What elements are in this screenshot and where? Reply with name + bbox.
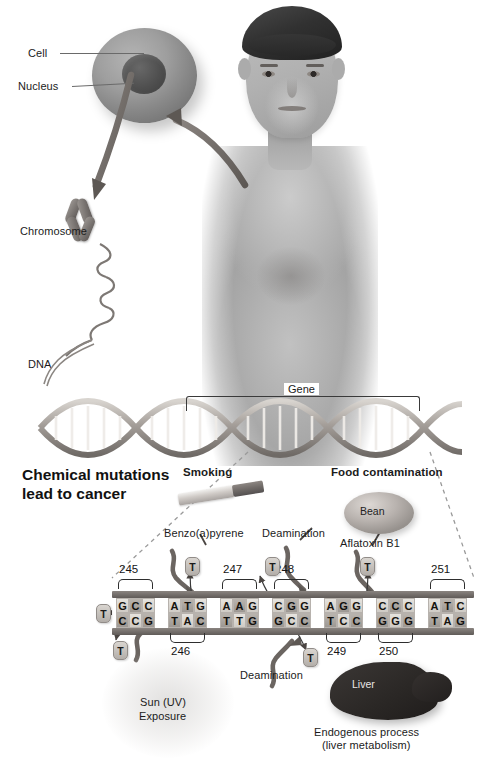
codon-247: ATATGG bbox=[220, 598, 259, 628]
base-top: T bbox=[181, 598, 194, 613]
codon-248: CGGCGC bbox=[272, 598, 311, 628]
base-pair: CC bbox=[129, 598, 142, 628]
base-pair: GC bbox=[298, 598, 311, 628]
base-bottom: C bbox=[337, 613, 350, 628]
cigarette-filter bbox=[232, 480, 264, 497]
base-pair: AT bbox=[168, 598, 181, 628]
eyebrow-left bbox=[260, 64, 278, 67]
uv-exposure-label: Exposure bbox=[139, 710, 186, 722]
base-top: G bbox=[350, 598, 363, 613]
base-top: C bbox=[272, 598, 285, 613]
base-top: C bbox=[376, 598, 389, 613]
nose bbox=[287, 78, 297, 98]
deamination-bottom-label: Deamination bbox=[240, 669, 303, 681]
base-top: G bbox=[246, 598, 259, 613]
base-pair: GC bbox=[337, 598, 350, 628]
smoking-label: Smoking bbox=[183, 466, 232, 478]
base-bottom: T bbox=[233, 613, 246, 628]
base-pair: AT bbox=[233, 598, 246, 628]
base-pair: CG bbox=[454, 598, 467, 628]
base-top: C bbox=[129, 598, 142, 613]
codon-brace-247 bbox=[222, 579, 257, 589]
eye-left bbox=[262, 71, 275, 77]
base-pair: CG bbox=[142, 598, 155, 628]
base-bottom: C bbox=[116, 613, 129, 628]
base-bottom: C bbox=[298, 613, 311, 628]
base-top: C bbox=[454, 598, 467, 613]
eye-right bbox=[307, 71, 320, 77]
base-pair: CG bbox=[389, 598, 402, 628]
base-pair: TA bbox=[441, 598, 454, 628]
base-top: G bbox=[337, 598, 350, 613]
base-pair: AT bbox=[220, 598, 233, 628]
base-pair: AT bbox=[324, 598, 337, 628]
base-bottom: G bbox=[402, 613, 415, 628]
eyebrow-right bbox=[306, 64, 324, 67]
liver-icon bbox=[330, 662, 438, 720]
base-bottom: G bbox=[454, 613, 467, 628]
codon-brace-250 bbox=[378, 633, 413, 643]
food-contamination-label: Food contamination bbox=[331, 466, 443, 478]
gene-label: Gene bbox=[284, 383, 319, 395]
t-chip-above-246: T bbox=[185, 557, 200, 576]
base-top: A bbox=[233, 598, 246, 613]
base-pair: CG bbox=[272, 598, 285, 628]
base-bottom: T bbox=[220, 613, 233, 628]
codon-246: ATTAGC bbox=[168, 598, 207, 628]
t-chip-left-upper: T bbox=[96, 604, 111, 623]
codon-249: ATGCGC bbox=[324, 598, 363, 628]
chest-shading bbox=[256, 246, 326, 306]
endogenous-process-label-2: (liver metabolism) bbox=[322, 739, 411, 751]
t-chip-above-248: T bbox=[265, 557, 280, 576]
base-bottom: C bbox=[350, 613, 363, 628]
chromosome-illustration bbox=[62, 198, 120, 246]
base-top: A bbox=[220, 598, 233, 613]
base-bottom: G bbox=[142, 613, 155, 628]
ear-left bbox=[238, 58, 251, 80]
dna-label: DNA bbox=[28, 358, 52, 370]
base-top: A bbox=[428, 598, 441, 613]
endogenous-process-label-1: Endogenous process bbox=[314, 726, 419, 738]
benzopyrene-label: Benzo(a)pyrene bbox=[164, 527, 244, 539]
cell-illustration bbox=[92, 28, 197, 123]
base-pair: AT bbox=[428, 598, 441, 628]
codon-brace-248 bbox=[274, 579, 309, 589]
cigarette-icon bbox=[178, 480, 265, 506]
codon-250: CGCGCG bbox=[376, 598, 415, 628]
base-pair: CG bbox=[402, 598, 415, 628]
nucleus-label: Nucleus bbox=[18, 80, 58, 92]
t-chip-above-249: T bbox=[360, 557, 375, 576]
base-bottom: G bbox=[389, 613, 402, 628]
base-top: C bbox=[142, 598, 155, 613]
base-pair: GC bbox=[350, 598, 363, 628]
base-top: C bbox=[402, 598, 415, 613]
base-bottom: A bbox=[441, 613, 454, 628]
codon-brace-245 bbox=[118, 579, 153, 589]
torso bbox=[202, 146, 378, 466]
base-bottom: C bbox=[129, 613, 142, 628]
codon-brace-246 bbox=[170, 633, 205, 643]
base-bottom: G bbox=[246, 613, 259, 628]
deamination-top-label: Deamination bbox=[262, 527, 325, 539]
codon-number-245: 245 bbox=[119, 563, 138, 575]
codon-number-247: 247 bbox=[223, 563, 242, 575]
sun-uv-label: Sun (UV) bbox=[140, 696, 186, 708]
cell-label: Cell bbox=[28, 47, 47, 59]
codon-number-251: 251 bbox=[431, 563, 450, 575]
base-pair: GC bbox=[194, 598, 207, 628]
codon-number-246: 246 bbox=[171, 645, 190, 657]
codon-number-250: 250 bbox=[379, 645, 398, 657]
base-top: G bbox=[116, 598, 129, 613]
bean-icon-label: Bean bbox=[360, 505, 385, 517]
cigarette-paper bbox=[178, 485, 235, 506]
hair bbox=[242, 6, 342, 60]
base-pair: GC bbox=[285, 598, 298, 628]
base-top: G bbox=[194, 598, 207, 613]
base-pair: TA bbox=[181, 598, 194, 628]
mouth bbox=[278, 106, 306, 111]
base-bottom: G bbox=[272, 613, 285, 628]
chromatin-coil bbox=[66, 244, 114, 356]
page-title: Chemical mutations lead to cancer bbox=[22, 466, 182, 504]
codon-brace-249 bbox=[326, 633, 361, 643]
base-bottom: G bbox=[376, 613, 389, 628]
